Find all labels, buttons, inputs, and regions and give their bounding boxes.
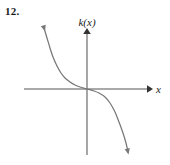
y-axis-label: k(x)	[78, 16, 95, 29]
x-axis-arrowhead	[147, 85, 153, 93]
y-axis	[83, 28, 91, 155]
curve-upper-left-arrowhead	[41, 25, 46, 31]
figure-screen: 12. k(x) x	[0, 0, 170, 165]
function-curve-group	[41, 25, 130, 155]
x-axis-label: x	[155, 83, 161, 95]
graph-figure: k(x) x	[0, 0, 170, 165]
curve-lower-right-arrowhead	[125, 148, 130, 154]
function-curve-kx	[44, 28, 128, 152]
y-axis-arrowhead	[83, 28, 91, 34]
